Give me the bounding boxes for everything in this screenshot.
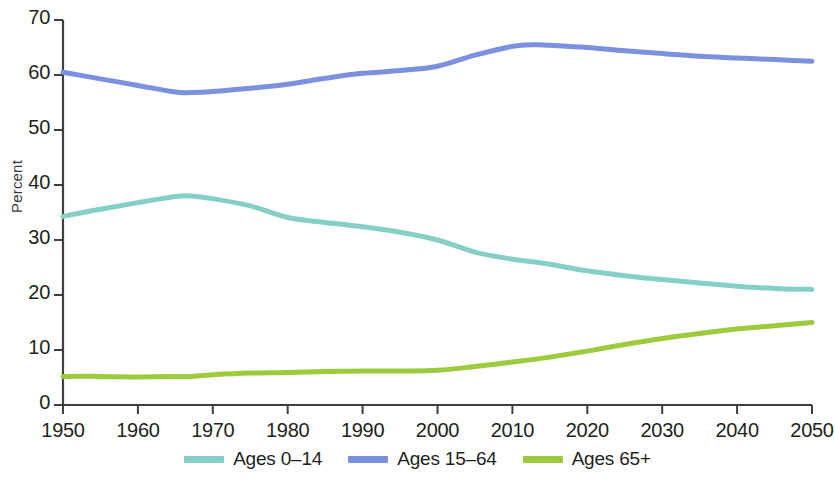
x-tick-label: 2000 (398, 419, 478, 442)
legend-label: Ages 65+ (572, 448, 651, 470)
y-tick-label: 0 (6, 391, 50, 414)
x-tick-label: 1960 (98, 419, 178, 442)
legend-label: Ages 15–64 (397, 448, 496, 470)
series-line (63, 196, 812, 290)
legend-color-swatch (523, 456, 563, 463)
series-line (63, 45, 812, 93)
legend-item[interactable]: Ages 15–64 (348, 448, 496, 470)
x-axis-ticks (63, 405, 812, 414)
x-tick-label: 2030 (622, 419, 702, 442)
y-axis-ticks (54, 20, 63, 405)
x-tick-label: 2040 (697, 419, 777, 442)
x-tick-label: 2010 (472, 419, 552, 442)
y-tick-label: 20 (6, 281, 50, 304)
legend-item[interactable]: Ages 65+ (523, 448, 651, 470)
legend-item[interactable]: Ages 0–14 (184, 448, 322, 470)
y-tick-label: 40 (6, 171, 50, 194)
x-tick-label: 1970 (173, 419, 253, 442)
x-tick-label: 1950 (23, 419, 103, 442)
y-tick-label: 70 (6, 6, 50, 29)
axis-lines (63, 20, 812, 405)
y-tick-label: 60 (6, 61, 50, 84)
y-tick-label: 30 (6, 226, 50, 249)
legend-color-swatch (348, 456, 388, 463)
x-tick-label: 2050 (772, 419, 835, 442)
x-tick-label: 2020 (547, 419, 627, 442)
data-series-group (63, 45, 812, 377)
x-tick-label: 1980 (248, 419, 328, 442)
plot-area (0, 0, 835, 478)
series-line (63, 323, 812, 377)
legend-label: Ages 0–14 (233, 448, 322, 470)
y-tick-label: 10 (6, 336, 50, 359)
line-chart: Percent 010203040506070 1950196019701980… (0, 0, 835, 478)
chart-legend: Ages 0–14Ages 15–64Ages 65+ (0, 448, 835, 470)
legend-color-swatch (184, 456, 224, 463)
x-tick-label: 1990 (323, 419, 403, 442)
y-tick-label: 50 (6, 116, 50, 139)
